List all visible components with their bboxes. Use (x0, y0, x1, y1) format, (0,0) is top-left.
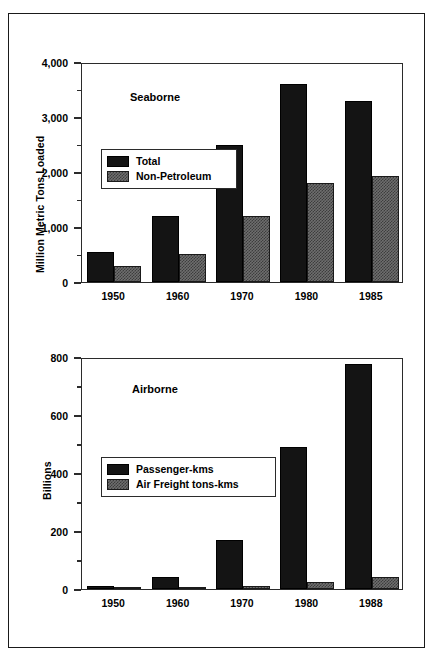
y-tick-major (74, 589, 81, 590)
x-tick-label: 1960 (166, 597, 189, 609)
y-tick-label: 600 (0, 410, 68, 422)
legend-label-passenger-kms: Passenger-kms (136, 464, 214, 475)
x-tick-label: 1950 (102, 597, 125, 609)
x-tick-label: 1988 (359, 597, 382, 609)
y-tick-label: 400 (0, 468, 68, 480)
y-tick-minor (77, 502, 81, 503)
legend-item-air-freight: Air Freight tons-kms (107, 477, 269, 492)
y-tick-label: 800 (0, 352, 68, 364)
bar-air-freight-tons-kms-1980 (307, 582, 334, 589)
plot-area-airborne: Airborne Passenger-kms Air Freight tons-… (81, 358, 403, 590)
legend-airborne: Passenger-kms Air Freight tons-kms (101, 457, 276, 497)
bar-passenger-kms-1960 (152, 577, 179, 589)
y-tick-label: 200 (0, 526, 68, 538)
y-tick-major (74, 357, 81, 358)
chart-panel-airborne: Billions Airborne Passenger-kms Air Frei… (0, 0, 444, 668)
legend-swatch-air-freight-icon (107, 479, 129, 490)
chart-caption-airborne: Airborne (132, 383, 178, 395)
bar-air-freight-tons-kms-1988 (372, 577, 399, 589)
x-tick-label: 1980 (295, 597, 318, 609)
y-tick-major (74, 531, 81, 532)
bar-air-freight-tons-kms-1960 (179, 587, 206, 589)
bar-passenger-kms-1980 (280, 447, 307, 589)
chart-page: Million Metric Tons Loaded Seaborne Tota… (0, 0, 444, 668)
bar-passenger-kms-1950 (87, 586, 114, 589)
y-tick-minor (77, 386, 81, 387)
x-tick-label: 1970 (230, 597, 253, 609)
legend-label-air-freight: Air Freight tons-kms (136, 479, 239, 490)
y-tick-minor (77, 560, 81, 561)
y-tick-minor (77, 444, 81, 445)
y-tick-label: 0 (0, 584, 68, 596)
bar-air-freight-tons-kms-1970 (243, 586, 270, 589)
bar-passenger-kms-1988 (345, 364, 372, 589)
bar-passenger-kms-1970 (216, 540, 243, 589)
bar-air-freight-tons-kms-1950 (114, 587, 141, 589)
legend-item-passenger-kms: Passenger-kms (107, 462, 269, 477)
legend-swatch-passenger-kms-icon (107, 464, 129, 475)
y-tick-major (74, 415, 81, 416)
y-tick-major (74, 473, 81, 474)
